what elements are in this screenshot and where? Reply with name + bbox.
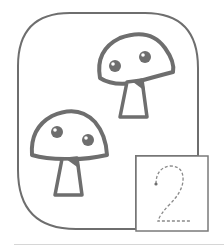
counting-illustration bbox=[0, 0, 224, 247]
divider-line bbox=[14, 244, 224, 245]
counting-card bbox=[0, 0, 224, 247]
number-card bbox=[136, 156, 208, 231]
mushroom-bottom-left-icon bbox=[32, 111, 107, 195]
mushroom-top-right-icon bbox=[99, 34, 173, 117]
